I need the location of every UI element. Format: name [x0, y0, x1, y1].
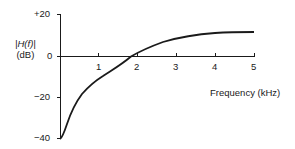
- y-axis-label: |H(f)| (dB): [15, 38, 36, 60]
- x-tick-label-5: 5: [251, 62, 256, 72]
- y-axis-label-line2: (dB): [15, 49, 36, 60]
- x-tick-label-4: 4: [212, 62, 217, 72]
- response-curve: [60, 32, 254, 139]
- y-tick-label-minus20: −20: [34, 92, 50, 102]
- y-tick-label-minus40: −40: [34, 133, 50, 143]
- y-tick-label-zero: 0: [47, 51, 52, 61]
- y-tick-label-plus20: +20: [34, 9, 50, 19]
- y-axis-label-line1: |H(f)|: [15, 38, 36, 49]
- frequency-response-plot: [0, 0, 295, 149]
- x-tick-label-2: 2: [134, 62, 139, 72]
- x-axis-label: Frequency (kHz): [210, 88, 280, 98]
- x-tick-label-3: 3: [173, 62, 178, 72]
- x-tick-label-1: 1: [96, 62, 101, 72]
